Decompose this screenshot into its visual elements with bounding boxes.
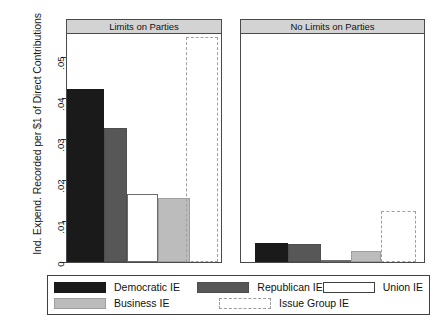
bar-left-democratic-ie[interactable] <box>67 89 104 262</box>
legend-item-republican-ie[interactable]: Republican IE <box>197 281 322 293</box>
legend-item-democratic-ie[interactable]: Democratic IE <box>54 281 197 293</box>
chart-figure: Ind. Expend. Recorded per $1 of Direct C… <box>0 0 437 324</box>
panel-no-limits-on-parties: No Limits on Parties <box>240 19 425 263</box>
y-tick-label: .02 <box>55 180 66 193</box>
legend-swatch-business-ie <box>54 298 106 309</box>
y-tick-label: .05 <box>55 57 66 70</box>
legend-item-union-ie[interactable]: Union IE <box>323 281 423 293</box>
legend-row-1: Democratic IE Republican IE Union IE <box>54 279 423 295</box>
legend-label-union-ie: Union IE <box>383 281 423 293</box>
legend-row-2: Business IE Issue Group IE <box>54 295 423 311</box>
legend-label-democratic-ie: Democratic IE <box>114 281 180 293</box>
legend-swatch-issue-group-ie <box>219 298 271 309</box>
y-tick-label: .04 <box>55 98 66 111</box>
legend-swatch-republican-ie <box>197 282 249 293</box>
panel-right-header: No Limits on Parties <box>241 20 424 34</box>
y-tick-label: .03 <box>55 139 66 152</box>
legend-label-republican-ie: Republican IE <box>257 281 322 293</box>
bar-left-issue-group-ie[interactable] <box>186 37 218 262</box>
legend-label-business-ie: Business IE <box>114 297 169 309</box>
panel-left-plot-area <box>67 34 221 262</box>
y-tick-label: .01 <box>55 221 66 234</box>
legend-label-issue-group-ie: Issue Group IE <box>279 297 349 309</box>
bar-right-democratic-ie[interactable] <box>255 243 288 262</box>
panel-left-title: Limits on Parties <box>109 21 178 32</box>
legend-item-issue-group-ie[interactable]: Issue Group IE <box>219 297 349 309</box>
bar-right-business-ie[interactable] <box>351 251 381 262</box>
legend-item-business-ie[interactable]: Business IE <box>54 297 219 309</box>
legend-swatch-union-ie <box>323 282 375 293</box>
bar-left-union-ie[interactable] <box>127 194 158 262</box>
panel-right-plot-area <box>241 34 424 262</box>
y-tick-label: 0 <box>55 262 66 267</box>
bar-left-republican-ie[interactable] <box>104 128 127 262</box>
chart-legend: Democratic IE Republican IE Union IE Bus… <box>47 275 430 315</box>
bar-right-issue-group-ie[interactable] <box>381 211 416 262</box>
bar-right-union-ie[interactable] <box>321 260 351 262</box>
bar-right-republican-ie[interactable] <box>288 244 321 262</box>
panel-limits-on-parties: Limits on Parties <box>66 19 222 263</box>
panel-left-header: Limits on Parties <box>67 20 221 34</box>
legend-swatch-democratic-ie <box>54 282 106 293</box>
panel-right-title: No Limits on Parties <box>290 21 374 32</box>
